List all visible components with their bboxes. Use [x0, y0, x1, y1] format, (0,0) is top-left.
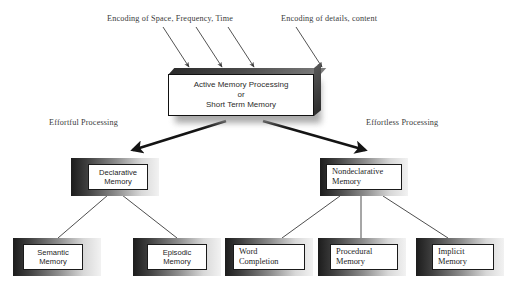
branch-arrows: [133, 121, 365, 150]
leaf-lines-right: [282, 196, 448, 238]
nondeclarative-line-1: Nondeclarative: [332, 167, 383, 177]
node-word-completion[interactable]: Word Completion: [225, 238, 313, 276]
implicit-line-2: Memory: [438, 257, 467, 267]
line-nondeclarative-implicit: [383, 196, 448, 238]
implicit-memory-label: Implicit Memory: [432, 244, 494, 270]
implicit-line-1: Implicit: [438, 247, 465, 257]
input-arrows: [163, 27, 322, 67]
central-right-bevel: [314, 62, 321, 116]
semantic-line-1: Semantic: [37, 248, 69, 257]
input-arrow-3: [228, 27, 254, 67]
semantic-memory-label: Semantic Memory: [23, 244, 83, 270]
procedural-line-2: Memory: [336, 257, 365, 267]
episodic-line-2: Memory: [163, 257, 190, 266]
input-arrow-4: [296, 27, 322, 67]
central-line-3: Short Term Memory: [206, 100, 276, 110]
word-completion-line-1: Word: [239, 247, 257, 257]
declarative-line-2: Memory: [104, 177, 131, 186]
declarative-line-1: Declarative: [99, 168, 137, 177]
episodic-line-1: Episodic: [163, 248, 192, 257]
node-semantic-memory[interactable]: Semantic Memory: [13, 238, 101, 276]
branch-arrow-nondeclarative: [263, 121, 365, 150]
node-declarative-memory[interactable]: Declarative Memory: [71, 158, 159, 196]
caption-encoding-space: Encoding of Space, Frequency, Time: [107, 14, 233, 23]
node-procedural-memory[interactable]: Procedural Memory: [318, 238, 406, 276]
nondeclarative-line-2: Memory: [332, 177, 361, 187]
declarative-memory-label: Declarative Memory: [88, 164, 148, 190]
caption-effortful-processing: Effortful Processing: [49, 118, 118, 127]
episodic-memory-label: Episodic Memory: [147, 244, 207, 270]
input-arrow-1: [163, 27, 189, 67]
caption-encoding-details: Encoding of details, content: [281, 14, 377, 23]
semantic-line-2: Memory: [39, 257, 66, 266]
line-declarative-episodic: [122, 195, 177, 238]
central-line-2: or: [237, 90, 244, 100]
node-episodic-memory[interactable]: Episodic Memory: [133, 238, 221, 276]
branch-arrow-declarative: [133, 121, 226, 150]
node-active-memory-processing[interactable]: Active Memory Processing or Short Term M…: [168, 74, 314, 116]
node-nondeclarative-memory[interactable]: Nondeclarative Memory: [320, 158, 408, 196]
caption-effortless-processing: Effortless Processing: [366, 118, 438, 127]
central-face: Active Memory Processing or Short Term M…: [168, 74, 314, 116]
nondeclarative-memory-label: Nondeclarative Memory: [326, 164, 402, 190]
word-completion-line-2: Completion: [239, 257, 279, 267]
procedural-line-1: Procedural: [336, 247, 372, 257]
line-declarative-semantic: [58, 195, 108, 238]
procedural-memory-label: Procedural Memory: [330, 244, 398, 270]
leaf-lines-left: [58, 195, 177, 238]
word-completion-label: Word Completion: [233, 244, 305, 270]
diagram-canvas: Encoding of Space, Frequency, Time Encod…: [0, 0, 518, 293]
input-arrow-2: [196, 27, 222, 67]
node-implicit-memory[interactable]: Implicit Memory: [416, 238, 504, 276]
central-line-1: Active Memory Processing: [194, 80, 289, 90]
line-nondeclarative-word: [282, 196, 340, 238]
